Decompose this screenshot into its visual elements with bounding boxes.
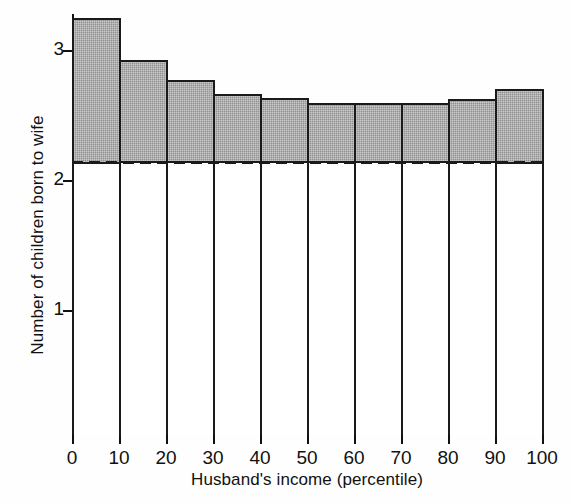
bar[interactable] [401,103,450,163]
bar-column-lower-40-50 [260,161,309,436]
x-tick-label: 10 [108,448,129,467]
bar-column-lower-90-100 [495,161,544,436]
bar-column-lower-10-20 [119,161,168,436]
bar[interactable] [307,103,356,163]
bar[interactable] [213,94,262,163]
bar-column-lower-50-60 [307,161,356,436]
bar-column-lower-30-40 [213,161,262,436]
x-tick-mark [72,435,74,444]
y-tick-mark [63,310,72,312]
y-tick-mark [63,50,72,52]
y-tick-label: 2 [53,169,64,188]
x-tick-mark [119,435,121,444]
bar[interactable] [448,99,497,163]
y-tick-label: 1 [53,299,64,318]
x-tick-mark [213,435,215,444]
x-axis-label: Husband's income (percentile) [72,470,542,490]
reference-line [72,161,542,164]
x-tick-mark [495,435,497,444]
bar[interactable] [260,98,309,163]
x-tick-mark [307,435,309,444]
bar[interactable] [354,103,403,163]
x-tick-label: 60 [343,448,364,467]
bar[interactable] [119,60,168,163]
x-tick-label: 40 [249,448,270,467]
y-tick-label: 3 [53,39,64,58]
y-axis-label: Number of children born to wife [28,85,48,385]
bar[interactable] [166,80,215,164]
chart-figure: Number of children born to wife Husband'… [0,0,572,503]
x-tick-mark [448,435,450,444]
bar[interactable] [72,18,121,164]
x-tick-label: 50 [296,448,317,467]
x-tick-label: 0 [67,448,78,467]
x-tick-label: 70 [390,448,411,467]
bar-column-lower-60-70 [354,161,403,436]
bar-column-lower-70-80 [401,161,450,436]
bar-column-lower-20-30 [166,161,215,436]
bar-column-lower-0-10 [72,161,121,436]
plot-area: 123 0102030405060708090100 [72,14,542,434]
x-tick-label: 30 [202,448,223,467]
x-tick-label: 90 [484,448,505,467]
x-tick-mark [260,435,262,444]
x-tick-mark [166,435,168,444]
bar-column-lower-80-90 [448,161,497,436]
x-tick-label: 80 [437,448,458,467]
x-tick-label: 20 [155,448,176,467]
x-tick-mark [542,435,544,444]
y-tick-mark [63,180,72,182]
x-tick-mark [401,435,403,444]
x-tick-label: 100 [526,448,558,467]
bar[interactable] [495,89,544,164]
x-tick-mark [354,435,356,444]
